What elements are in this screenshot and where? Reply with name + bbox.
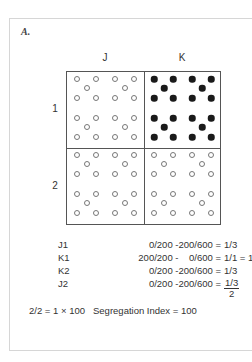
open-dot-icon (170, 152, 176, 158)
open-dot-icon (170, 210, 176, 216)
filled-dot-icon (151, 115, 158, 122)
filled-dot-icon (161, 85, 168, 92)
open-dot-icon (74, 171, 80, 177)
segregation-index: Segregation Index = 100 (93, 305, 197, 316)
calc-expression: 0/200 -200/600 = (91, 238, 221, 251)
filled-dot-icon (208, 134, 215, 141)
filled-dot-icon (170, 95, 177, 102)
calc-expression: 0/200 -200/600 = (91, 277, 221, 290)
fraction-denominator: 2 (224, 289, 239, 299)
open-dot-icon (93, 152, 99, 158)
open-dot-icon (84, 200, 90, 206)
open-dot-icon (122, 85, 128, 91)
summary-formula: 2/2 = 1 × 100 (29, 305, 85, 316)
filled-dot-icon (161, 124, 168, 131)
open-dot-icon (189, 171, 195, 177)
open-dot-icon (84, 85, 90, 91)
calc-expression: 0/200 -200/600 = (91, 264, 221, 277)
open-dot-icon (112, 152, 118, 158)
open-dot-icon (170, 191, 176, 197)
open-dot-icon (131, 115, 137, 121)
open-dot-icon (112, 171, 118, 177)
calc-label: J2 (58, 277, 88, 290)
open-dot-icon (93, 210, 99, 216)
horizontal-divider (67, 148, 220, 149)
filled-dot-icon (151, 95, 158, 102)
cell-k1 (144, 72, 220, 147)
open-dot-icon (189, 210, 195, 216)
open-dot-icon (151, 210, 157, 216)
row-label-1: 1 (50, 103, 60, 114)
open-dot-icon (131, 191, 137, 197)
open-dot-icon (74, 152, 80, 158)
column-label-k: K (172, 52, 192, 63)
open-dot-icon (74, 115, 80, 121)
row-label-2: 2 (50, 180, 60, 191)
open-dot-icon (131, 152, 137, 158)
column-label-j: J (95, 52, 115, 63)
open-dot-icon (199, 161, 205, 167)
open-dot-icon (112, 134, 118, 140)
panel-label: A. (21, 26, 30, 37)
open-dot-icon (151, 152, 157, 158)
filled-dot-icon (170, 134, 177, 141)
open-dot-icon (112, 76, 118, 82)
open-dot-icon (131, 210, 137, 216)
open-dot-icon (93, 171, 99, 177)
open-dot-icon (189, 152, 195, 158)
open-dot-icon (112, 191, 118, 197)
calc-result-fraction: 1/3 2 (224, 278, 239, 299)
open-dot-icon (161, 161, 167, 167)
open-dot-icon (74, 95, 80, 101)
filled-dot-icon (151, 134, 158, 141)
calc-result: 1/3 (224, 264, 237, 277)
open-dot-icon (93, 191, 99, 197)
open-dot-icon (112, 210, 118, 216)
open-dot-icon (122, 161, 128, 167)
open-dot-icon (93, 134, 99, 140)
open-dot-icon (131, 95, 137, 101)
filled-dot-icon (189, 134, 196, 141)
calc-expression: 200/200 - 0/600 = (91, 251, 221, 264)
summary-line: 2/2 = 1 × 100Segregation Index = 100 (29, 305, 197, 316)
open-dot-icon (74, 134, 80, 140)
open-dot-icon (199, 200, 205, 206)
filled-dot-icon (199, 85, 206, 92)
filled-dot-icon (170, 76, 177, 83)
open-dot-icon (74, 76, 80, 82)
open-dot-icon (151, 171, 157, 177)
open-dot-icon (93, 76, 99, 82)
open-dot-icon (208, 152, 214, 158)
filled-dot-icon (208, 115, 215, 122)
open-dot-icon (131, 76, 137, 82)
filled-dot-icon (189, 95, 196, 102)
open-dot-icon (84, 161, 90, 167)
open-dot-icon (74, 210, 80, 216)
filled-dot-icon (189, 76, 196, 83)
calc-result: 1/1 = 1 (224, 251, 252, 264)
open-dot-icon (208, 191, 214, 197)
open-dot-icon (208, 210, 214, 216)
open-dot-icon (112, 115, 118, 121)
open-dot-icon (122, 124, 128, 130)
cell-k2 (144, 148, 220, 223)
open-dot-icon (170, 171, 176, 177)
open-dot-icon (74, 191, 80, 197)
open-dot-icon (122, 200, 128, 206)
fraction: 1/3 2 (224, 278, 239, 299)
open-dot-icon (84, 124, 90, 130)
open-dot-icon (189, 191, 195, 197)
open-dot-icon (93, 95, 99, 101)
open-dot-icon (151, 191, 157, 197)
open-dot-icon (208, 171, 214, 177)
open-dot-icon (112, 95, 118, 101)
open-dot-icon (131, 134, 137, 140)
open-dot-icon (131, 171, 137, 177)
calc-result: 1/3 (224, 238, 237, 251)
filled-dot-icon (151, 76, 158, 83)
open-dot-icon (93, 115, 99, 121)
open-dot-icon (161, 200, 167, 206)
calc-label: K2 (58, 264, 88, 277)
calc-label: K1 (58, 251, 88, 264)
filled-dot-icon (189, 115, 196, 122)
